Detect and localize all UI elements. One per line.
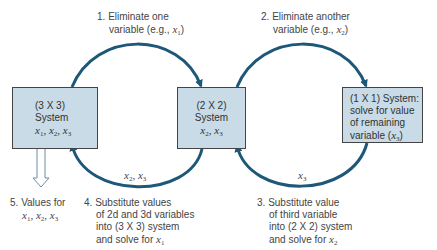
- node-1x1-line3: of remaining: [350, 117, 422, 129]
- step-5-label: 5. Values for x1, x2, x3: [10, 197, 65, 225]
- step-4-label: 4. Substitute values of 2d and 3d variab…: [84, 197, 194, 249]
- step-2-label: 2. Eliminate another variable (e.g., x2): [261, 11, 350, 39]
- node-3x3-vars: x1, x2, x3: [35, 124, 97, 140]
- node-3x3-subtitle: System: [35, 112, 97, 124]
- step-4-carried-vars: x2, x3: [124, 169, 146, 183]
- node-2x2-vars: x2, x3: [178, 124, 245, 140]
- node-2x2-title: (2 X 2): [178, 100, 245, 112]
- arrow-step-5-output: [33, 148, 49, 187]
- node-1x1-system: (1 X 1) System: solve for value of remai…: [342, 87, 423, 143]
- node-2x2-system: (2 X 2) System x2, x3: [177, 87, 246, 149]
- node-3x3-system: (3 X 3) System x1, x2, x3: [12, 87, 98, 149]
- arrow-step-1: [72, 44, 201, 87]
- arrow-step-2: [237, 44, 366, 87]
- step-1-label: 1. Eliminate one variable (e.g., x1): [97, 11, 184, 39]
- node-1x1-line4: variable (x3): [350, 129, 422, 145]
- node-1x1-line2: solve for value: [350, 105, 422, 117]
- step-3-label: 3. Substitute value of third variable in…: [257, 197, 352, 249]
- node-3x3-title: (3 X 3): [35, 100, 97, 112]
- node-1x1-title: (1 X 1) System:: [350, 93, 422, 105]
- node-2x2-subtitle: System: [178, 112, 245, 124]
- step-3-carried-var: x3: [298, 169, 306, 183]
